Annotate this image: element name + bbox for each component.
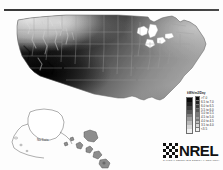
legend-rows: >7.0 6.5 to 7.0 6.0 to 6.5 5.5 to 6.0 5.… xyxy=(195,97,214,132)
alaska-inset-label: No Data xyxy=(37,139,48,142)
legend-row: <3.5 xyxy=(195,128,214,132)
legend-label: <3.5 xyxy=(201,128,207,131)
legend-swatch xyxy=(195,127,200,132)
legend-body: >7.0 6.5 to 7.0 6.0 to 6.5 5.5 to 6.0 5.… xyxy=(186,97,223,134)
nrel-logo[interactable]: NREL xyxy=(163,143,218,158)
nrel-checkered-mark xyxy=(163,143,178,158)
legend-colorbar xyxy=(186,97,193,134)
solar-resource-figure: No Data kWh/m2/Day >7.0 6.5 to 7.0 6.0 t… xyxy=(0,0,223,170)
header-rule xyxy=(4,9,219,11)
nrel-wordmark: NREL xyxy=(179,143,218,158)
solar-resource-legend[interactable]: kWh/m2/Day >7.0 6.5 to 7.0 6.0 to 6.5 xyxy=(186,92,223,134)
nrel-tagline: NATIONAL RENEWABLE ENERGY LABORATORY xyxy=(163,159,223,161)
alaska-shape[interactable] xyxy=(12,109,72,158)
hawaii-shape[interactable] xyxy=(64,130,110,168)
